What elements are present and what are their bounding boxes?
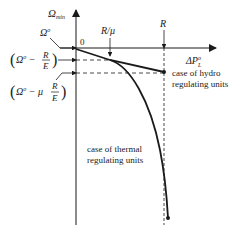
thermal-curve bbox=[110, 60, 168, 218]
svg-text:Ωo −: Ωo − bbox=[16, 54, 35, 65]
omega0-label: Ωo bbox=[40, 27, 50, 38]
svg-text:): ) bbox=[61, 83, 66, 101]
hydro-caption-line1: case of hydro bbox=[172, 68, 221, 78]
thermal-caption-line2: regulating units bbox=[87, 155, 144, 165]
hydro-end-point bbox=[162, 70, 166, 74]
svg-text:E: E bbox=[51, 93, 58, 103]
level2-label: ( Ωo − μ R E ) bbox=[10, 81, 66, 103]
r-mu-label: R/μ bbox=[100, 25, 115, 36]
svg-text:(: ( bbox=[10, 51, 15, 69]
frequency-diagram: Ωmin 0 Ωo R/μ R ΔPoL ( Ωo − R E ) ( Ωo −… bbox=[0, 0, 242, 233]
svg-text:): ) bbox=[52, 51, 57, 69]
level2-pointer bbox=[56, 73, 76, 80]
thermal-end-point bbox=[166, 216, 170, 220]
r-label: R bbox=[159, 18, 166, 29]
level1-label: ( Ωo − R E ) bbox=[10, 50, 57, 71]
svg-text:E: E bbox=[42, 61, 49, 71]
svg-text:(: ( bbox=[10, 83, 15, 101]
thermal-caption-line1: case of thermal bbox=[87, 144, 142, 154]
svg-text:Ωo − μ: Ωo − μ bbox=[16, 86, 43, 97]
svg-text:R: R bbox=[42, 50, 49, 60]
origin-label: 0 bbox=[80, 37, 85, 47]
x-axis-label: ΔPoL bbox=[185, 55, 202, 68]
hydro-curve bbox=[76, 49, 164, 72]
omega0-pointer bbox=[50, 38, 76, 48]
y-axis-label: Ωmin bbox=[48, 7, 65, 20]
hydro-caption-line2: regulating units bbox=[172, 79, 229, 89]
svg-text:R: R bbox=[51, 81, 58, 91]
diagram-svg: Ωmin 0 Ωo R/μ R ΔPoL ( Ωo − R E ) ( Ωo −… bbox=[0, 0, 242, 233]
